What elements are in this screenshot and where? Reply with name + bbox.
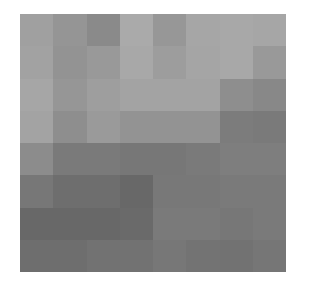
pixel-tile [220, 46, 253, 78]
pixel-tile [186, 79, 219, 111]
pixel-tile [20, 14, 53, 46]
pixel-grid-image [20, 14, 286, 272]
pixel-tile [53, 111, 86, 143]
pixel-tile [220, 240, 253, 272]
pixel-tile [53, 240, 86, 272]
pixel-tile [87, 143, 120, 175]
pixel-tile [186, 143, 219, 175]
pixel-tile [186, 14, 219, 46]
pixel-tile [186, 175, 219, 207]
pixel-tile [120, 143, 153, 175]
pixel-tile [20, 240, 53, 272]
pixel-tile [87, 240, 120, 272]
pixel-tile [53, 46, 86, 78]
pixel-tile [220, 79, 253, 111]
pixel-tile [153, 208, 186, 240]
pixel-tile [20, 208, 53, 240]
pixel-tile [153, 46, 186, 78]
pixel-tile [220, 143, 253, 175]
pixel-tile [253, 240, 286, 272]
pixel-tile [87, 111, 120, 143]
pixel-tile [53, 79, 86, 111]
pixel-tile [53, 143, 86, 175]
pixel-tile [20, 143, 53, 175]
pixel-tile [253, 143, 286, 175]
pixel-tile [53, 14, 86, 46]
pixel-tile [120, 240, 153, 272]
pixel-tile [186, 111, 219, 143]
pixel-tile [220, 175, 253, 207]
pixel-tile [253, 79, 286, 111]
pixel-tile [53, 175, 86, 207]
pixel-tile [53, 208, 86, 240]
pixel-tile [186, 240, 219, 272]
pixel-tile [253, 111, 286, 143]
pixel-tile [20, 111, 53, 143]
pixel-tile [87, 46, 120, 78]
pixel-tile [253, 208, 286, 240]
pixel-tile [153, 14, 186, 46]
pixel-tile [20, 175, 53, 207]
pixel-tile [120, 208, 153, 240]
pixel-tile [153, 175, 186, 207]
pixel-tile [87, 79, 120, 111]
pixel-tile [120, 111, 153, 143]
pixel-tile [87, 175, 120, 207]
pixel-tile [220, 14, 253, 46]
pixel-tile [120, 79, 153, 111]
pixel-tile [20, 79, 53, 111]
pixel-tile [153, 79, 186, 111]
pixel-tile [120, 46, 153, 78]
pixel-tile [253, 14, 286, 46]
pixel-tile [153, 143, 186, 175]
pixel-tile [20, 46, 53, 78]
pixel-tile [186, 208, 219, 240]
pixel-tile [153, 240, 186, 272]
pixel-tile [220, 208, 253, 240]
pixel-tile [87, 14, 120, 46]
pixel-tile [186, 46, 219, 78]
pixel-tile [153, 111, 186, 143]
pixel-tile [253, 175, 286, 207]
pixel-tile [120, 175, 153, 207]
pixel-tile [120, 14, 153, 46]
pixel-tile [87, 208, 120, 240]
pixel-tile [253, 46, 286, 78]
pixel-tile [220, 111, 253, 143]
